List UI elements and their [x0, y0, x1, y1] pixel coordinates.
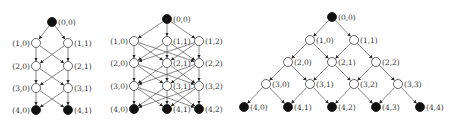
node-label: (2,1)	[74, 62, 92, 71]
graph-node: (3,1)	[64, 84, 92, 93]
node-label: (1,0)	[316, 36, 334, 45]
edge-arrow	[357, 65, 372, 80]
open-node-circle	[130, 37, 139, 46]
node-label: (4,1)	[294, 103, 312, 112]
edge-arrow	[335, 43, 350, 58]
node-label: (3,2)	[360, 80, 378, 89]
node-label: (2,1)	[173, 59, 191, 68]
edge-arrow	[357, 87, 373, 103]
filled-node-circle	[64, 106, 73, 115]
edge-arrow	[291, 43, 306, 58]
filled-node-circle	[416, 103, 425, 112]
nodes: (0,0)(1,0)(1,1)(1,2)(2,0)(2,1)(2,2)(3,0)…	[110, 15, 223, 114]
node-label: (2,0)	[110, 59, 128, 68]
open-node-circle	[195, 37, 204, 46]
filled-node-circle	[195, 105, 204, 114]
edge-arrow	[247, 87, 263, 103]
open-node-circle	[64, 84, 73, 93]
graph-node: (0,0)	[328, 13, 356, 22]
graph-binomial-lattice: (0,0)(1,0)(1,1)(2,0)(2,1)(2,2)(3,0)(3,1)…	[240, 13, 444, 112]
node-label: (3,1)	[74, 84, 92, 93]
edge-arrow	[269, 65, 284, 80]
node-label: (3,0)	[272, 80, 290, 89]
open-node-circle	[32, 84, 41, 93]
graph-two-column-complete: (0,0)(1,0)(1,1)(2,0)(2,1)(3,0)(3,1)(4,0)…	[12, 18, 92, 115]
node-label: (1,0)	[110, 37, 128, 46]
graph-node: (4,4)	[416, 103, 444, 112]
node-label: (1,1)	[74, 39, 92, 48]
node-label: (2,1)	[338, 58, 356, 67]
node-label: (2,0)	[12, 62, 30, 71]
open-node-circle	[195, 59, 204, 68]
edge-arrow	[313, 43, 328, 58]
edge-arrow	[55, 26, 65, 40]
graph-node: (2,1)	[163, 59, 191, 68]
graph-node: (3,2)	[195, 82, 223, 91]
node-label: (2,0)	[294, 58, 312, 67]
node-label: (0,0)	[173, 15, 191, 24]
open-node-circle	[64, 39, 73, 48]
open-node-circle	[284, 58, 293, 67]
diagram-canvas: (0,0)(1,0)(1,1)(2,0)(2,1)(3,0)(3,1)(4,0)…	[0, 0, 452, 125]
edge-arrow	[401, 87, 417, 103]
node-label: (1,1)	[360, 36, 378, 45]
filled-node-circle	[372, 103, 381, 112]
edge-arrow	[313, 20, 329, 36]
graph-node: (4,2)	[328, 103, 356, 112]
filled-node-circle	[240, 103, 249, 112]
graph-node: (1,1)	[163, 37, 191, 46]
edge-arrow	[335, 20, 351, 36]
graph-node: (1,0)	[110, 37, 138, 46]
edge-arrow	[379, 65, 394, 80]
graph-node: (2,1)	[328, 58, 356, 67]
node-label: (0,0)	[58, 18, 76, 27]
open-node-circle	[372, 58, 381, 67]
edge-arrow	[335, 65, 350, 80]
graph-node: (3,0)	[110, 82, 138, 91]
node-label: (3,3)	[404, 80, 422, 89]
edge-arrow	[357, 43, 372, 58]
filled-node-circle	[163, 105, 172, 114]
open-node-circle	[64, 62, 73, 71]
nodes: (0,0)(1,0)(1,1)(2,0)(2,1)(3,0)(3,1)(4,0)…	[12, 18, 92, 115]
graph-node: (3,1)	[163, 82, 191, 91]
graph-node: (3,1)	[306, 80, 334, 89]
node-label: (3,1)	[316, 80, 334, 89]
node-label: (1,2)	[205, 37, 223, 46]
filled-node-circle	[328, 13, 337, 22]
node-label: (4,0)	[110, 105, 128, 114]
open-node-circle	[394, 80, 403, 89]
graph-node: (1,1)	[350, 36, 378, 45]
edge-arrow	[379, 87, 395, 103]
graph-node: (4,0)	[12, 106, 40, 115]
graph-node: (1,1)	[64, 39, 92, 48]
open-node-circle	[328, 58, 337, 67]
open-node-circle	[32, 62, 41, 71]
node-label: (3,0)	[12, 84, 30, 93]
graph-node: (4,1)	[64, 106, 92, 115]
open-node-circle	[306, 36, 315, 45]
graph-node: (2,1)	[64, 62, 92, 71]
graph-node: (1,0)	[306, 36, 334, 45]
open-node-circle	[350, 80, 359, 89]
node-label: (4,1)	[173, 105, 191, 114]
node-label: (3,2)	[205, 82, 223, 91]
graph-node: (2,0)	[12, 62, 40, 71]
open-node-circle	[306, 80, 315, 89]
filled-node-circle	[48, 18, 57, 27]
graph-node: (4,0)	[110, 105, 138, 114]
open-node-circle	[163, 59, 172, 68]
edge-arrow	[335, 87, 351, 103]
filled-node-circle	[328, 103, 337, 112]
edge-arrow	[291, 87, 307, 103]
edge-arrow	[39, 26, 49, 40]
edge-arrow	[313, 65, 328, 80]
graph-node: (3,2)	[350, 80, 378, 89]
edge-arrow	[269, 87, 285, 103]
open-node-circle	[195, 82, 204, 91]
edge-arrow	[313, 87, 329, 103]
node-label: (4,0)	[250, 103, 268, 112]
graph-node: (0,0)	[48, 18, 76, 27]
graph-node: (0,0)	[163, 15, 191, 24]
filled-node-circle	[130, 105, 139, 114]
